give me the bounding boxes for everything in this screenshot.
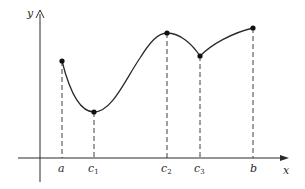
tick-label-c3: c3 <box>194 162 205 176</box>
tick-label-b: b <box>250 162 257 175</box>
function-curve <box>62 28 253 112</box>
tick-label-c1: c1 <box>88 162 99 176</box>
x-axis-label: x <box>283 164 290 177</box>
point-c3 <box>197 53 202 58</box>
tick-label-a: a <box>58 162 65 175</box>
tick-label-c2: c2 <box>161 162 172 176</box>
point-c2 <box>164 30 169 35</box>
x-axis-arrow-icon <box>280 155 289 161</box>
point-a <box>59 58 64 63</box>
point-b <box>250 25 255 30</box>
function-graph: y x a c1 c2 c3 b <box>0 0 305 189</box>
point-c1 <box>91 109 96 114</box>
y-axis-label: y <box>26 7 34 20</box>
